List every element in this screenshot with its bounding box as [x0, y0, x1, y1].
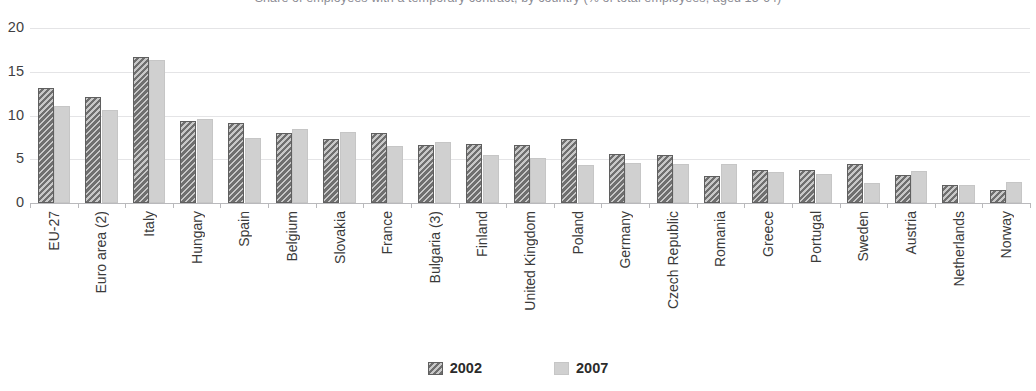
- bar-group: [744, 28, 792, 203]
- x-axis-category-label: Austria: [904, 211, 918, 255]
- bar-group: [459, 28, 507, 203]
- bar-2007: [340, 132, 356, 203]
- x-axis-tick: [601, 203, 602, 208]
- bar-group: [363, 28, 411, 203]
- bar-group: [601, 28, 649, 203]
- x-axis-line: [30, 203, 1030, 204]
- legend-item-2002[interactable]: 2002: [428, 360, 482, 376]
- legend-label: 2002: [450, 360, 482, 376]
- bar-2007: [911, 171, 927, 203]
- bar-2007: [387, 146, 403, 203]
- x-axis-tick: [506, 203, 507, 208]
- bar-2007: [864, 183, 880, 203]
- x-axis-tick: [649, 203, 650, 208]
- bar-2007: [578, 165, 594, 204]
- y-axis-tick-label: 5: [0, 151, 24, 166]
- x-axis-tick: [268, 203, 269, 208]
- x-axis-tick: [792, 203, 793, 208]
- x-axis-category-label: Italy: [142, 211, 156, 237]
- bar-2002: [609, 154, 625, 203]
- bar-2007: [149, 60, 165, 203]
- bar-group: [268, 28, 316, 203]
- bar-2002: [133, 57, 149, 203]
- x-axis-tick: [887, 203, 888, 208]
- bar-group: [220, 28, 268, 203]
- bar-group: [649, 28, 697, 203]
- bar-2007: [625, 163, 641, 203]
- x-axis-tick: [1030, 203, 1031, 208]
- x-axis-category-label: Bulgaria (3): [428, 211, 442, 283]
- bar-2007: [197, 119, 213, 203]
- bar-group: [887, 28, 935, 203]
- bar-2002: [180, 121, 196, 203]
- legend-label: 2007: [576, 360, 608, 376]
- bar-2007: [245, 138, 261, 203]
- bar-2007: [816, 174, 832, 203]
- x-axis-category-label: Slovakia: [333, 211, 347, 264]
- x-axis-tick: [840, 203, 841, 208]
- bar-2007: [530, 158, 546, 204]
- y-axis-tick-label: 20: [0, 20, 24, 35]
- bar-group: [30, 28, 78, 203]
- chart-legend: 20022007: [0, 360, 1036, 376]
- bar-2002: [466, 144, 482, 203]
- y-axis-tick-label: 0: [0, 195, 24, 210]
- legend-swatch-icon: [554, 362, 569, 375]
- x-axis-category-label: Sweden: [856, 211, 870, 262]
- bar-2007: [435, 142, 451, 203]
- bar-2002: [323, 139, 339, 203]
- bar-2002: [657, 155, 673, 203]
- bar-2002: [847, 164, 863, 203]
- x-axis-tick: [554, 203, 555, 208]
- x-axis-category-label: Euro area (2): [94, 211, 108, 293]
- bar-group: [78, 28, 126, 203]
- legend-swatch-icon: [428, 362, 443, 375]
- x-axis-category-label: Belgium: [285, 211, 299, 262]
- x-axis-tick: [697, 203, 698, 208]
- x-axis-category-label: United Kingdom: [523, 211, 537, 311]
- x-axis-category-label: EU-27: [47, 211, 61, 251]
- bar-2002: [371, 133, 387, 203]
- bar-2002: [418, 145, 434, 203]
- bar-series-container: [30, 28, 1030, 203]
- bar-2002: [561, 139, 577, 203]
- bar-group: [935, 28, 983, 203]
- x-axis-tick: [30, 203, 31, 208]
- x-axis-tick: [78, 203, 79, 208]
- bar-2002: [228, 123, 244, 204]
- x-axis-category-label: Romania: [713, 211, 727, 267]
- bar-group: [411, 28, 459, 203]
- bar-2007: [959, 185, 975, 203]
- x-axis-category-label: Hungary: [190, 211, 204, 264]
- bar-group: [506, 28, 554, 203]
- x-axis-tick: [125, 203, 126, 208]
- bar-2007: [721, 164, 737, 203]
- bar-2002: [514, 145, 530, 203]
- bar-group: [316, 28, 364, 203]
- y-axis-tick-label: 15: [0, 64, 24, 79]
- bar-2007: [768, 172, 784, 203]
- bar-2002: [942, 185, 958, 203]
- y-axis-tick-label: 10: [0, 108, 24, 123]
- bar-2002: [38, 88, 54, 203]
- x-axis-category-label: France: [380, 211, 394, 255]
- x-axis-tick: [935, 203, 936, 208]
- bar-group: [697, 28, 745, 203]
- bar-2007: [292, 129, 308, 203]
- bar-2002: [276, 133, 292, 203]
- x-axis-category-label: Germany: [618, 211, 632, 269]
- x-axis-category-label: Czech Republic: [666, 211, 680, 309]
- bar-group: [125, 28, 173, 203]
- x-axis-category-label: Spain: [237, 211, 251, 247]
- legend-item-2007[interactable]: 2007: [554, 360, 608, 376]
- bar-2007: [673, 164, 689, 203]
- bar-2002: [990, 190, 1006, 203]
- bar-2002: [704, 176, 720, 203]
- bar-2002: [799, 170, 815, 203]
- bar-2002: [85, 97, 101, 203]
- x-axis-tick: [363, 203, 364, 208]
- bar-2007: [102, 110, 118, 203]
- bar-group: [554, 28, 602, 203]
- chart-title: Share of employees with a temporary cont…: [0, 0, 1036, 7]
- x-axis-category-label: Finland: [475, 211, 489, 257]
